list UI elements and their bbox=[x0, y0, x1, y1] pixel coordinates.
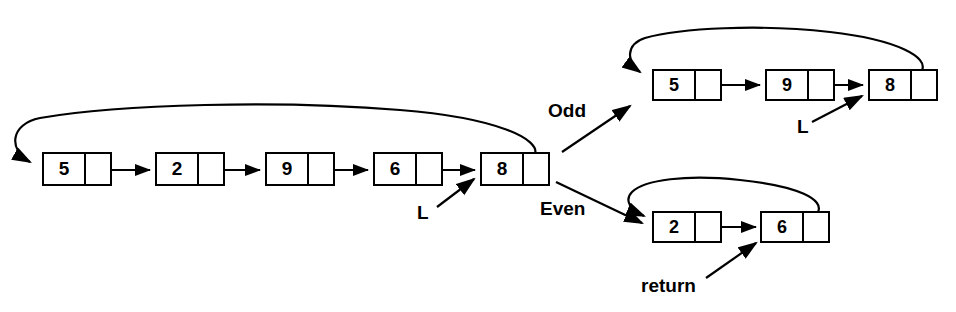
original-node-4: 8 bbox=[480, 152, 550, 186]
node-next-cell bbox=[309, 154, 333, 184]
original-node-2: 9 bbox=[265, 152, 335, 186]
even-node-1: 6 bbox=[760, 211, 830, 243]
node-next-cell bbox=[912, 71, 936, 99]
even-list-return-arrow bbox=[706, 243, 756, 278]
original-list-pointer-label: L bbox=[417, 203, 429, 222]
node-value: 9 bbox=[267, 154, 309, 184]
linked-list-split-diagram: 5 2 9 6 8 L Odd Even 5 9 8 L 2 6 bbox=[0, 0, 956, 312]
node-next-cell bbox=[696, 71, 720, 99]
node-value: 5 bbox=[654, 71, 696, 99]
odd-node-1: 9 bbox=[765, 69, 835, 101]
even-node-0: 2 bbox=[652, 211, 722, 243]
original-node-1: 2 bbox=[155, 152, 225, 186]
node-value: 5 bbox=[44, 154, 86, 184]
node-value: 8 bbox=[870, 71, 912, 99]
odd-list-circular-link bbox=[630, 28, 923, 72]
odd-node-0: 5 bbox=[652, 69, 722, 101]
diagram-lines-layer bbox=[0, 0, 956, 312]
odd-node-2: 8 bbox=[868, 69, 938, 101]
node-next-cell bbox=[809, 71, 833, 99]
original-node-3: 6 bbox=[373, 152, 443, 186]
node-next-cell bbox=[417, 154, 441, 184]
node-value: 8 bbox=[482, 154, 524, 184]
node-value: 6 bbox=[762, 213, 804, 241]
node-value: 2 bbox=[654, 213, 696, 241]
branch-label-even: Even bbox=[540, 199, 585, 218]
node-next-cell bbox=[86, 154, 110, 184]
node-value: 6 bbox=[375, 154, 417, 184]
even-list-pointer-label: return bbox=[641, 276, 696, 295]
odd-list-pointer-label: L bbox=[797, 117, 809, 136]
node-value: 2 bbox=[157, 154, 199, 184]
node-value: 9 bbox=[767, 71, 809, 99]
node-next-cell bbox=[804, 213, 828, 241]
branch-label-odd: Odd bbox=[548, 101, 586, 120]
node-next-cell bbox=[524, 154, 548, 184]
node-next-cell bbox=[696, 213, 720, 241]
original-node-0: 5 bbox=[42, 152, 112, 186]
node-next-cell bbox=[199, 154, 223, 184]
